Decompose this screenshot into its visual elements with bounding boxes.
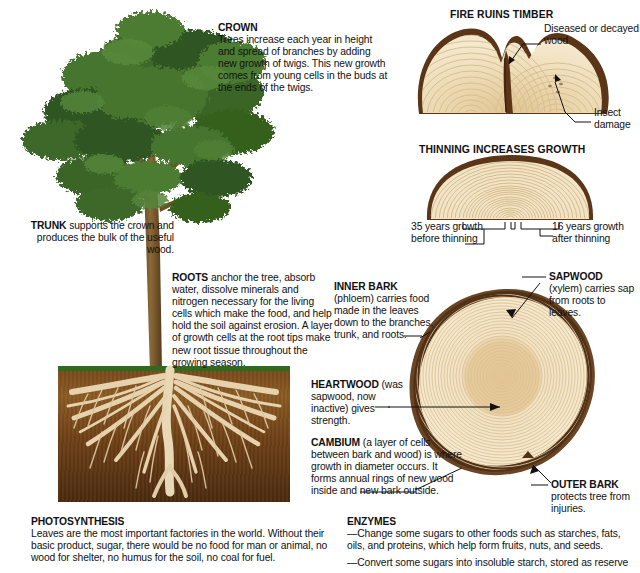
enzymes-line-1: —Change some sugars to other foods such … xyxy=(347,528,621,551)
cambium-label: CAMBIUM (a layer of cells between bark a… xyxy=(311,437,463,497)
outer-bark-title: OUTER BARK xyxy=(551,479,619,490)
outer-bark-label: OUTER BARK protects tree from injuries. xyxy=(551,479,635,515)
enzymes-title: ENZYMES xyxy=(347,516,396,527)
heartwood-label: HEARTWOOD (was sapwood, now inactive) gi… xyxy=(311,379,405,427)
inner-bark-title: INNER BARK xyxy=(334,281,398,292)
soil-block xyxy=(58,366,290,502)
inner-bark-label: INNER BARK (phloem) carries food made in… xyxy=(334,281,434,341)
photosynthesis-title: PHOTOSYNTHESIS xyxy=(31,516,124,527)
thinning-increases-growth-panel: THINNING INCREASES GROWTH xyxy=(405,144,637,254)
cambium-title: CAMBIUM xyxy=(311,437,360,448)
fire-insect-label: Insect damage xyxy=(594,107,640,131)
thinning-after-label: 16 years growth after thinning xyxy=(552,221,638,245)
enzymes-block: ENZYMES —Change some sugars to other foo… xyxy=(347,516,635,569)
thinning-before-label: 35 years growth before thinning xyxy=(411,221,503,245)
crown-label: CROWN Trees increase each year in height… xyxy=(218,22,388,95)
crown-body: Trees increase each year in height and s… xyxy=(218,34,387,93)
sapwood-body: (xylem) carries sap from roots to leaves… xyxy=(549,283,634,318)
roots-title: ROOTS xyxy=(172,272,208,283)
roots-body: anchor the tree, absorb water, dissolve … xyxy=(172,272,332,368)
enzymes-line-2: —Convert some sugars into insoluble star… xyxy=(347,557,628,568)
inner-bark-body: (phloem) carries food made in the leaves… xyxy=(334,293,433,340)
photosynthesis-body: Leaves are the most important factories … xyxy=(31,528,327,563)
roots-label: ROOTS anchor the tree, absorb water, dis… xyxy=(172,272,334,369)
sapwood-label: SAPWOOD (xylem) carries sap from roots t… xyxy=(549,271,635,319)
crown-title: CROWN xyxy=(218,22,258,33)
fire-decayed-label: Diseased or decayed wood xyxy=(544,23,640,47)
heartwood-title: HEARTWOOD xyxy=(311,379,379,390)
sapwood-title: SAPWOOD xyxy=(549,271,603,282)
fire-ruins-timber-panel: FIRE RUINS TIMBER xyxy=(405,4,637,140)
trunk-title: TRUNK xyxy=(31,220,67,231)
outer-bark-body: protects tree from injuries. xyxy=(551,491,630,514)
trunk-label: TRUNK supports the crown and produces th… xyxy=(30,220,174,256)
photosynthesis-block: PHOTOSYNTHESIS Leaves are the most impor… xyxy=(31,516,337,564)
